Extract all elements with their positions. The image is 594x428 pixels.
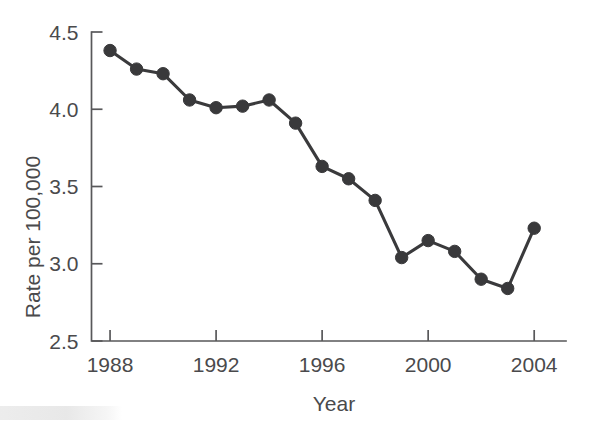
- data-point-1999: [395, 251, 407, 263]
- data-point-2003: [501, 282, 513, 294]
- y-axis-tick-labels: 2.53.03.54.04.5: [49, 21, 78, 353]
- y-tick-label-3.0: 3.0: [49, 252, 78, 275]
- data-point-1991: [183, 94, 195, 106]
- data-point-1990: [157, 68, 169, 80]
- data-point-1998: [369, 194, 381, 206]
- data-point-1996: [316, 160, 328, 172]
- y-axis-title: Rate per 100,000: [21, 156, 44, 318]
- data-point-2004: [528, 222, 540, 234]
- x-tick-label-1992: 1992: [193, 353, 240, 376]
- y-tick-label-2.5: 2.5: [49, 330, 78, 353]
- x-tick-label-2004: 2004: [511, 353, 558, 376]
- data-point-1997: [342, 173, 354, 185]
- y-axis-ticks: [92, 32, 103, 341]
- y-tick-label-4.5: 4.5: [49, 21, 78, 44]
- data-point-1988: [104, 44, 116, 56]
- data-point-2002: [475, 273, 487, 285]
- line-chart: 2.53.03.54.04.5 19881992199620002004 Rat…: [0, 0, 594, 428]
- chart-page: 2.53.03.54.04.5 19881992199620002004 Rat…: [0, 0, 594, 428]
- data-point-1993: [236, 100, 248, 112]
- x-axis-title: Year: [313, 392, 355, 415]
- x-tick-label-1996: 1996: [299, 353, 346, 376]
- data-point-1989: [130, 63, 142, 75]
- x-tick-label-1988: 1988: [87, 353, 134, 376]
- data-point-2001: [448, 245, 460, 257]
- x-tick-label-2000: 2000: [405, 353, 452, 376]
- data-point-1995: [289, 117, 301, 129]
- y-tick-label-3.5: 3.5: [49, 175, 78, 198]
- data-point-2000: [422, 234, 434, 246]
- data-point-1994: [263, 94, 275, 106]
- x-axis-ticks: [110, 330, 534, 341]
- x-axis-tick-labels: 19881992199620002004: [87, 353, 558, 376]
- y-tick-label-4.0: 4.0: [49, 98, 78, 121]
- data-point-1992: [210, 102, 222, 114]
